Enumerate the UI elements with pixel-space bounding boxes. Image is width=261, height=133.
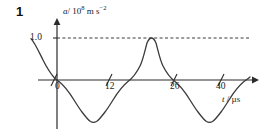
x-axis-quantity-symbol: t (222, 94, 225, 104)
x-tick-label-0: 0 (55, 82, 60, 92)
x-axis-arrow-icon (252, 76, 259, 83)
y-axis-arrow-icon (54, 18, 61, 25)
y-axis-unit-rest: m s (87, 6, 100, 16)
y-axis-unit-rest-exponent: −2 (100, 4, 107, 11)
y-axis-unit-exponent: 8 (81, 4, 84, 11)
x-tick-label-12: 12 (105, 82, 115, 92)
x-tick-label-40: 40 (216, 82, 226, 92)
x-axis-title: t / µs (222, 95, 240, 104)
y-tick-label-1.0: 1.0 (30, 33, 42, 43)
figure-container: 1 1.0 0 12 26 40 a/ 108 m s−2 t / µs (0, 0, 261, 133)
y-axis-separator: / (68, 6, 71, 16)
y-axis-title: a/ 108 m s−2 (63, 7, 106, 16)
x-axis-separator: / (227, 94, 230, 104)
y-axis-unit-mantissa: 10 (72, 6, 81, 16)
x-axis-unit: µs (232, 94, 241, 104)
acceleration-time-graph (0, 0, 261, 133)
x-tick-label-26: 26 (170, 82, 180, 92)
